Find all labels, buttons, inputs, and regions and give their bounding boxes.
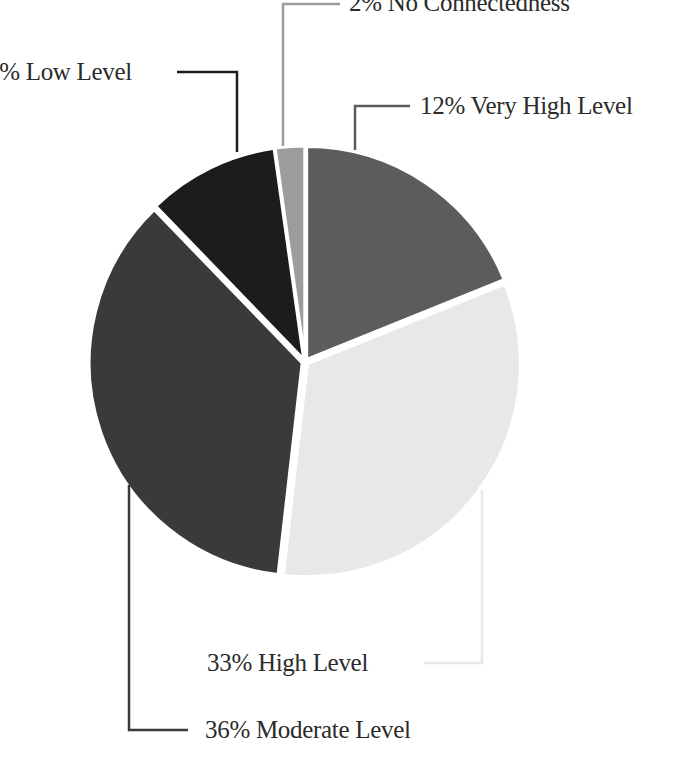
label-high-level: 33% High Level	[207, 650, 368, 675]
label-low-level: 9% Low Level	[0, 59, 132, 84]
label-very-high-level: 12% Very High Level	[420, 93, 633, 118]
label-no-connectedness: 2% No Connectedness	[349, 0, 570, 15]
leader-no-connectedness	[283, 4, 340, 146]
pie-slices	[89, 146, 520, 577]
leader-low-level	[177, 72, 237, 152]
leader-very-high-level	[355, 106, 410, 150]
label-moderate-level: 36% Moderate Level	[205, 717, 411, 742]
